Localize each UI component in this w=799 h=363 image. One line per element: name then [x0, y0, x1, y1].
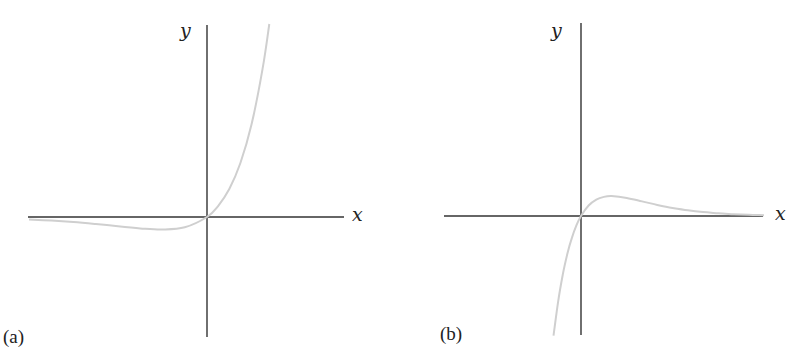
panel-b-curve	[554, 196, 765, 336]
panel-a-curve	[29, 24, 269, 230]
panel-a: y x (a)	[3, 19, 363, 348]
panel-b: y x (b)	[440, 19, 786, 345]
panel-b-y-label: y	[550, 19, 562, 41]
panel-b-label: (b)	[440, 323, 462, 345]
panel-a-y-label: y	[179, 19, 191, 41]
panel-a-label: (a)	[3, 326, 24, 348]
figure: y x (a) y x (b)	[0, 0, 799, 363]
panel-b-x-label: x	[775, 202, 786, 224]
panel-a-x-label: x	[352, 203, 363, 225]
